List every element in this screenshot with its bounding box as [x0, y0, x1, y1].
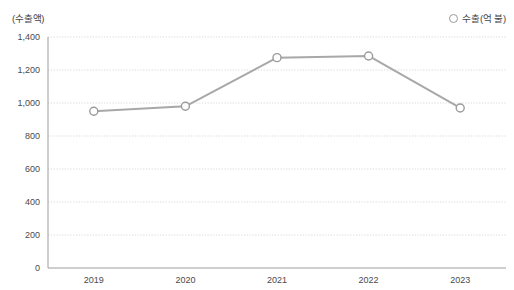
x-axis-tick-label: 2022 [359, 275, 379, 285]
x-axis-tick-label: 2019 [84, 275, 104, 285]
x-axis-tick-label: 2021 [267, 275, 287, 285]
data-point-marker [365, 52, 373, 60]
x-axis-tick-label: 2020 [175, 275, 195, 285]
gridlines [48, 37, 506, 235]
data-point-marker [90, 107, 98, 115]
y-axis-tick-label: 600 [25, 164, 40, 174]
y-axis-tick-label: 1,400 [17, 32, 40, 42]
y-axis-tick-label: 1,200 [17, 65, 40, 75]
y-axis-tick-label: 200 [25, 230, 40, 240]
y-axis-tick-labels: 1,4001,2001,0008006004002000 [17, 32, 40, 273]
x-axis-tick-labels: 20192020202120222023 [84, 275, 470, 285]
data-point-marker [456, 104, 464, 112]
y-axis-tick-label: 0 [35, 263, 40, 273]
data-point-marker [273, 54, 281, 62]
series-line-export [94, 56, 460, 111]
plot-area: 1,4001,2001,0008006004002000 20192020202… [0, 0, 514, 290]
y-axis-tick-label: 1,000 [17, 98, 40, 108]
series-markers [90, 52, 464, 115]
y-axis-tick-label: 400 [25, 197, 40, 207]
data-point-marker [181, 102, 189, 110]
line-chart: (수출액) 수출(억 불) 1,4001,2001,00080060040020… [0, 0, 514, 290]
y-axis-tick-label: 800 [25, 131, 40, 141]
x-axis-tick-label: 2023 [450, 275, 470, 285]
